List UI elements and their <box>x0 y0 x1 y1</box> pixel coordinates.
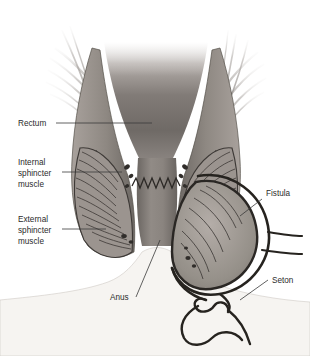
label-external-sphincter-2: sphincter <box>18 226 51 235</box>
label-seton: Seton <box>272 276 294 285</box>
label-rectum: Rectum <box>18 119 46 128</box>
figure-svg: Rectum Internal sphincter muscle Externa… <box>0 0 310 356</box>
label-internal-sphincter-3: muscle <box>18 180 44 189</box>
label-internal-sphincter: Internal <box>18 158 45 167</box>
label-anus: Anus <box>110 293 129 302</box>
top-fade <box>92 24 222 76</box>
anal-canal <box>137 158 177 246</box>
label-external-sphincter: External <box>18 215 48 224</box>
label-external-sphincter-3: muscle <box>18 237 44 246</box>
anatomical-illustration: Rectum Internal sphincter muscle Externa… <box>0 0 310 356</box>
label-internal-sphincter-2: sphincter <box>18 169 51 178</box>
label-fistula: Fistula <box>266 189 291 198</box>
